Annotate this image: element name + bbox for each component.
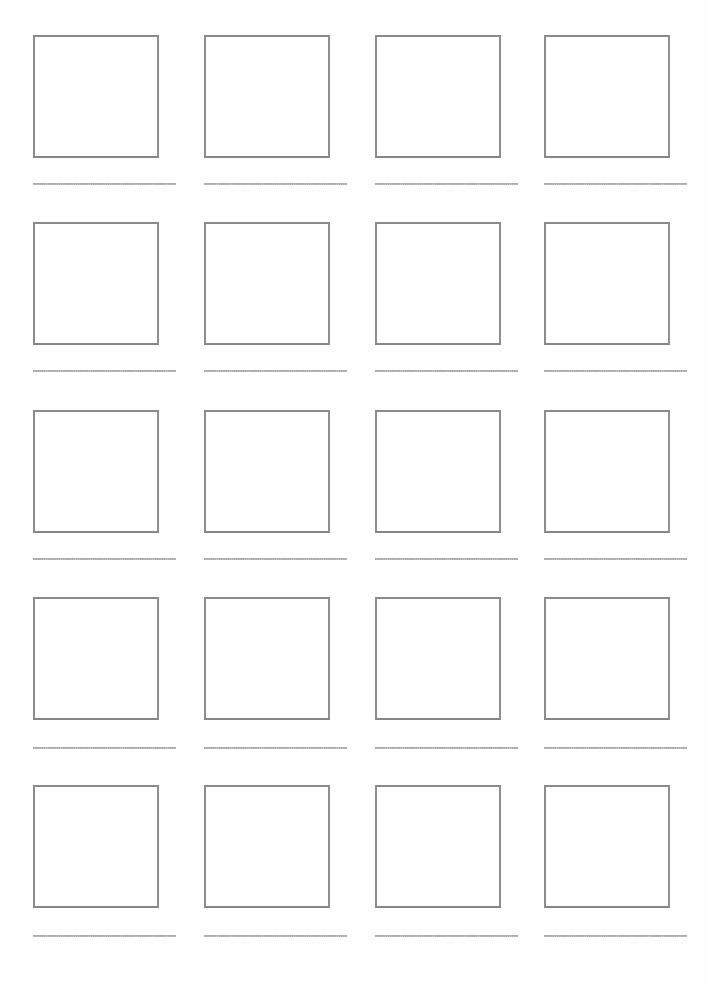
drawing-box[interactable] bbox=[544, 410, 670, 533]
drawing-box[interactable] bbox=[204, 597, 330, 720]
dotted-writing-line[interactable] bbox=[204, 935, 347, 937]
drawing-box[interactable] bbox=[544, 597, 670, 720]
dotted-writing-line[interactable] bbox=[204, 183, 347, 185]
drawing-box[interactable] bbox=[33, 35, 159, 158]
dotted-writing-line[interactable] bbox=[544, 183, 687, 185]
dotted-writing-line[interactable] bbox=[33, 558, 176, 560]
drawing-box[interactable] bbox=[33, 222, 159, 345]
drawing-box[interactable] bbox=[544, 35, 670, 158]
worksheet-cell bbox=[544, 222, 670, 373]
worksheet-cell bbox=[544, 35, 670, 186]
worksheet-cell bbox=[375, 222, 501, 373]
dotted-writing-line[interactable] bbox=[375, 370, 518, 372]
worksheet-cell bbox=[544, 785, 670, 938]
worksheet-cell bbox=[33, 35, 159, 186]
drawing-box[interactable] bbox=[375, 35, 501, 158]
worksheet-cell bbox=[375, 785, 501, 938]
drawing-box[interactable] bbox=[544, 222, 670, 345]
dotted-writing-line[interactable] bbox=[375, 747, 518, 749]
dotted-writing-line[interactable] bbox=[375, 183, 518, 185]
dotted-writing-line[interactable] bbox=[544, 935, 687, 937]
dotted-writing-line[interactable] bbox=[33, 183, 176, 185]
dotted-writing-line[interactable] bbox=[375, 558, 518, 560]
worksheet-cell bbox=[544, 597, 670, 750]
dotted-writing-line[interactable] bbox=[33, 935, 176, 937]
drawing-box[interactable] bbox=[375, 597, 501, 720]
dotted-writing-line[interactable] bbox=[544, 747, 687, 749]
dotted-writing-line[interactable] bbox=[375, 935, 518, 937]
drawing-box[interactable] bbox=[204, 785, 330, 908]
drawing-box[interactable] bbox=[204, 222, 330, 345]
dotted-writing-line[interactable] bbox=[33, 370, 176, 372]
worksheet-cell bbox=[204, 410, 330, 561]
drawing-box[interactable] bbox=[375, 410, 501, 533]
worksheet-cell bbox=[204, 785, 330, 938]
drawing-box[interactable] bbox=[544, 785, 670, 908]
worksheet-cell bbox=[204, 35, 330, 186]
dotted-writing-line[interactable] bbox=[544, 558, 687, 560]
worksheet-cell bbox=[375, 597, 501, 750]
drawing-box[interactable] bbox=[375, 785, 501, 908]
worksheet-cell bbox=[544, 410, 670, 561]
worksheet-cell bbox=[204, 597, 330, 750]
worksheet-cell bbox=[204, 222, 330, 373]
worksheet-grid bbox=[0, 0, 708, 990]
drawing-box[interactable] bbox=[33, 410, 159, 533]
dotted-writing-line[interactable] bbox=[204, 747, 347, 749]
dotted-writing-line[interactable] bbox=[544, 370, 687, 372]
drawing-box[interactable] bbox=[33, 785, 159, 908]
worksheet-cell bbox=[375, 410, 501, 561]
drawing-box[interactable] bbox=[204, 410, 330, 533]
dotted-writing-line[interactable] bbox=[204, 370, 347, 372]
worksheet-cell bbox=[33, 222, 159, 373]
worksheet-cell bbox=[33, 410, 159, 561]
dotted-writing-line[interactable] bbox=[204, 558, 347, 560]
worksheet-page bbox=[0, 0, 708, 990]
worksheet-cell bbox=[375, 35, 501, 186]
worksheet-cell bbox=[33, 785, 159, 938]
drawing-box[interactable] bbox=[375, 222, 501, 345]
drawing-box[interactable] bbox=[33, 597, 159, 720]
dotted-writing-line[interactable] bbox=[33, 747, 176, 749]
drawing-box[interactable] bbox=[204, 35, 330, 158]
worksheet-cell bbox=[33, 597, 159, 750]
